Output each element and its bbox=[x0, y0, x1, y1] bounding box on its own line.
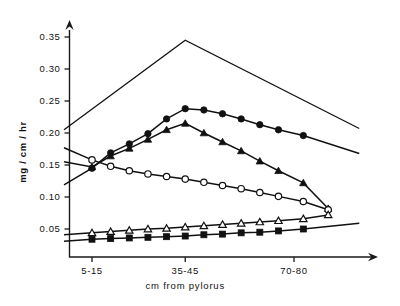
marker-open-circle bbox=[107, 163, 113, 169]
series-line-open-circle bbox=[64, 148, 328, 210]
marker-filled-triangle bbox=[144, 136, 151, 142]
marker-filled-square bbox=[300, 226, 306, 232]
x-tick-label: 5-15 bbox=[81, 265, 102, 276]
y-axis-arrow bbox=[65, 20, 73, 30]
marker-open-circle bbox=[182, 176, 188, 182]
labels-layer: 0.050.100.150.200.250.300.355-1535-4570-… bbox=[17, 31, 308, 291]
y-tick-label: 0.25 bbox=[40, 95, 61, 106]
marker-open-circle bbox=[163, 173, 169, 179]
marker-filled-circle bbox=[257, 121, 263, 127]
marker-filled-circle bbox=[275, 127, 281, 133]
marker-filled-triangle bbox=[256, 158, 263, 164]
marker-open-circle bbox=[257, 189, 263, 195]
marker-filled-circle bbox=[219, 111, 225, 117]
x-tick-label: 70-80 bbox=[280, 265, 307, 276]
marker-open-circle bbox=[219, 182, 225, 188]
marker-filled-circle bbox=[163, 116, 169, 122]
marker-filled-square bbox=[145, 234, 151, 240]
marker-open-circle bbox=[201, 179, 207, 185]
series-filled-circle bbox=[64, 105, 359, 184]
series-line-open-triangle bbox=[64, 215, 328, 235]
marker-open-circle bbox=[238, 185, 244, 191]
series-layer bbox=[64, 40, 359, 242]
marker-open-circle bbox=[126, 168, 132, 174]
marker-filled-triangle bbox=[275, 167, 282, 173]
series-line-filled-circle bbox=[64, 109, 359, 185]
marker-filled-square bbox=[108, 236, 114, 242]
marker-open-circle bbox=[145, 171, 151, 177]
y-tick-label: 0.20 bbox=[40, 127, 61, 138]
marker-open-circle bbox=[300, 198, 306, 204]
y-tick-label: 0.30 bbox=[40, 63, 61, 74]
series-open-triangle bbox=[64, 211, 332, 235]
marker-filled-circle bbox=[182, 105, 188, 111]
y-tick-label: 0.15 bbox=[40, 159, 61, 170]
marker-filled-square bbox=[257, 229, 263, 235]
y-tick-label: 0.35 bbox=[40, 31, 61, 42]
marker-open-circle bbox=[89, 157, 95, 163]
marker-filled-square bbox=[201, 232, 207, 238]
series-line-filled-triangle bbox=[64, 123, 328, 208]
marker-filled-circle bbox=[201, 107, 207, 113]
marker-filled-triangle bbox=[219, 138, 226, 144]
marker-filled-circle bbox=[300, 132, 306, 138]
marker-filled-square bbox=[182, 233, 188, 239]
marker-filled-square bbox=[275, 228, 281, 234]
series-line-top-envelope bbox=[64, 40, 359, 130]
y-axis-title: mg / cm / hr bbox=[17, 121, 28, 183]
marker-filled-triangle bbox=[300, 179, 307, 185]
marker-open-circle bbox=[275, 193, 281, 199]
y-tick-label: 0.10 bbox=[40, 191, 61, 202]
marker-filled-square bbox=[238, 230, 244, 236]
series-top-envelope bbox=[64, 40, 359, 130]
chart-figure: 0.050.100.150.200.250.300.355-1535-4570-… bbox=[0, 0, 400, 306]
marker-filled-circle bbox=[238, 116, 244, 122]
y-tick-label: 0.05 bbox=[40, 223, 61, 234]
marker-filled-square bbox=[89, 236, 95, 242]
marker-filled-square bbox=[164, 234, 170, 240]
x-axis-title: cm from pylorus bbox=[145, 280, 225, 291]
x-tick-label: 35-45 bbox=[172, 265, 199, 276]
line-chart-svg: 0.050.100.150.200.250.300.355-1535-4570-… bbox=[0, 0, 400, 306]
marker-filled-triangle bbox=[200, 129, 207, 135]
marker-filled-triangle bbox=[237, 147, 244, 153]
marker-filled-triangle bbox=[182, 120, 189, 126]
marker-filled-square bbox=[220, 231, 226, 237]
marker-filled-square bbox=[126, 235, 132, 241]
